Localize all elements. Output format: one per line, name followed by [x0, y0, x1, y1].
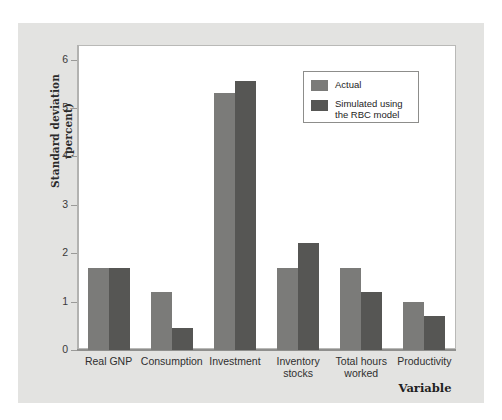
- y-axis-tick-label: 2: [48, 246, 68, 258]
- y-axis-tick-label: 3: [48, 198, 68, 210]
- legend-swatch-actual: [311, 80, 328, 91]
- bar: [403, 302, 424, 350]
- x-axis-title: Variable: [380, 381, 470, 395]
- bar: [361, 292, 382, 350]
- x-axis-tick-label-line: Total hours: [327, 356, 396, 368]
- bar: [424, 316, 445, 350]
- x-axis-line: [77, 349, 456, 351]
- y-axis-tick-mark: [71, 156, 77, 157]
- y-axis-tick-label: 5: [48, 101, 68, 113]
- bar: [214, 93, 235, 350]
- x-axis-tick-label: Real GNP: [74, 356, 143, 368]
- y-axis-title-line2: (percent): [62, 51, 75, 211]
- bar: [298, 243, 319, 350]
- y-axis-title: Standard deviation (percent): [49, 51, 75, 211]
- x-axis-tick-label-line: Inventory: [264, 356, 333, 368]
- x-axis-tick-label: Productivity: [390, 356, 459, 368]
- y-axis-tick-mark: [71, 302, 77, 303]
- bar: [151, 292, 172, 350]
- y-axis-tick-label: 4: [48, 149, 68, 161]
- y-axis-tick-label: 6: [48, 53, 68, 65]
- bar: [235, 81, 256, 350]
- x-axis-tick-label: Consumption: [137, 356, 206, 368]
- x-axis-tick-label-line: Real GNP: [74, 356, 143, 368]
- y-axis-tick-label: 1: [48, 295, 68, 307]
- x-axis-tick-label-line: stocks: [264, 368, 333, 380]
- legend-label-actual: Actual: [335, 79, 361, 90]
- y-axis-tick-mark: [71, 350, 77, 351]
- y-axis-title-line1: Standard deviation: [49, 51, 62, 211]
- x-axis-tick-label: Total hoursworked: [327, 356, 396, 379]
- legend-label-simulated: Simulated using the RBC model: [335, 98, 403, 120]
- bar: [277, 268, 298, 350]
- x-axis-tick-label-line: Productivity: [390, 356, 459, 368]
- x-axis-tick-label: Investment: [200, 356, 269, 368]
- y-axis-tick-mark: [71, 205, 77, 206]
- bar: [109, 268, 130, 350]
- chart-figure: Standard deviation (percent) 0123456 Rea…: [0, 0, 502, 420]
- y-axis-tick-mark: [71, 253, 77, 254]
- x-axis-tick-label-line: worked: [327, 368, 396, 380]
- x-axis-tick-label-line: Investment: [200, 356, 269, 368]
- y-axis-tick-mark: [71, 60, 77, 61]
- y-axis-tick-mark: [71, 108, 77, 109]
- x-axis-tick-label: Inventorystocks: [264, 356, 333, 379]
- legend-label-simulated-line2: the RBC model: [335, 109, 403, 120]
- bar: [88, 268, 109, 350]
- x-axis-tick-label-line: Consumption: [137, 356, 206, 368]
- y-axis-line: [77, 45, 79, 350]
- bar: [172, 328, 193, 350]
- bar: [340, 268, 361, 350]
- legend-label-simulated-line1: Simulated using: [335, 98, 403, 109]
- chart-legend: Actual Simulated using the RBC model: [303, 71, 419, 123]
- y-axis-tick-label: 0: [48, 343, 68, 355]
- legend-swatch-simulated: [311, 100, 328, 111]
